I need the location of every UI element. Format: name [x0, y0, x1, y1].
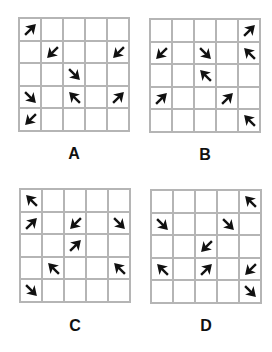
arrow-southwest-icon — [44, 44, 61, 61]
grid-cell — [109, 235, 131, 258]
grid-cell — [173, 43, 195, 66]
grid-cell — [152, 236, 174, 259]
grid-cell — [217, 110, 239, 133]
grid-cell — [43, 280, 65, 303]
arrow-southeast-icon — [220, 216, 237, 233]
grid-cell — [240, 191, 262, 214]
arrow-northwest-icon — [111, 260, 128, 277]
grid-cell — [64, 64, 86, 87]
grid-cell — [173, 110, 195, 133]
grid-cell — [108, 87, 130, 110]
grid-cell — [108, 19, 130, 42]
option-grid — [19, 188, 131, 303]
arrow-northwest-icon — [242, 193, 259, 210]
arrow-southeast-icon — [22, 89, 39, 106]
arrow-northwest-icon — [241, 45, 258, 62]
arrow-northwest-icon — [154, 261, 171, 278]
grid-cell — [240, 281, 262, 304]
grid-cell — [173, 88, 195, 111]
arrow-northeast-icon — [110, 89, 127, 106]
grid-cell — [217, 20, 239, 43]
grid-cell — [240, 259, 262, 282]
option-a[interactable]: A — [0, 0, 136, 176]
option-label: A — [54, 145, 94, 163]
arrow-southwest-icon — [153, 45, 170, 62]
grid-cell — [20, 42, 42, 65]
grid-cell — [173, 20, 195, 43]
grid-cell — [21, 235, 43, 258]
arrow-southwest-icon — [110, 44, 127, 61]
arrow-northeast-icon — [241, 22, 258, 39]
grid-cell — [43, 190, 65, 213]
arrow-southwest-icon — [198, 238, 215, 255]
option-grid — [150, 189, 262, 304]
arrow-northwest-icon — [197, 67, 214, 84]
grid-cell — [86, 87, 108, 110]
grid-cell — [86, 19, 108, 42]
grid-cell — [65, 280, 87, 303]
grid-cell — [109, 280, 131, 303]
grid-cell — [42, 42, 64, 65]
grid-cell — [151, 110, 173, 133]
grid-cell — [217, 43, 239, 66]
grid-cell — [65, 190, 87, 213]
grid-cell — [195, 20, 217, 43]
grid-cell — [108, 42, 130, 65]
grid-cell — [42, 87, 64, 110]
grid-cell — [152, 281, 174, 304]
grid-cell — [217, 88, 239, 111]
grid-cell — [195, 88, 217, 111]
grid-cell — [87, 190, 109, 213]
option-c[interactable]: C — [0, 176, 136, 352]
arrow-northeast-icon — [198, 261, 215, 278]
grid-cell — [43, 235, 65, 258]
grid-cell — [65, 213, 87, 236]
arrow-southeast-icon — [154, 216, 171, 233]
option-label: C — [55, 317, 95, 335]
arrow-northeast-icon — [22, 21, 39, 38]
arrow-northeast-icon — [219, 90, 236, 107]
grid-cell — [20, 19, 42, 42]
grid-cell — [174, 214, 196, 237]
grid-cell — [174, 259, 196, 282]
grid-cell — [109, 258, 131, 281]
grid-cell — [151, 20, 173, 43]
arrow-southeast-icon — [197, 45, 214, 62]
option-b[interactable]: B — [136, 0, 272, 176]
grid-cell — [65, 235, 87, 258]
grid-cell — [218, 214, 240, 237]
arrow-northeast-icon — [23, 215, 40, 232]
arrow-northwest-icon — [23, 192, 40, 209]
grid-cell — [21, 213, 43, 236]
arrow-southwest-icon — [242, 261, 259, 278]
grid-cell — [174, 281, 196, 304]
arrow-southeast-icon — [111, 215, 128, 232]
grid-cell — [86, 64, 108, 87]
grid-cell — [65, 258, 87, 281]
arrow-northeast-icon — [153, 90, 170, 107]
grid-cell — [64, 42, 86, 65]
grid-cell — [196, 236, 218, 259]
grid-cell — [195, 110, 217, 133]
grid-cell — [21, 190, 43, 213]
grid-cell — [174, 191, 196, 214]
grid-cell — [43, 258, 65, 281]
grid-cell — [239, 65, 261, 88]
grid-cell — [108, 109, 130, 132]
grid-cell — [173, 65, 195, 88]
arrow-northwest-icon — [45, 260, 62, 277]
grid-cell — [151, 88, 173, 111]
grid-cell — [87, 280, 109, 303]
grid-cell — [42, 64, 64, 87]
grid-cell — [240, 214, 262, 237]
grid-cell — [217, 65, 239, 88]
grid-cell — [218, 191, 240, 214]
grid-cell — [218, 259, 240, 282]
option-d[interactable]: D — [136, 176, 272, 352]
grid-cell — [86, 42, 108, 65]
grid-cell — [196, 281, 218, 304]
grid-cell — [239, 43, 261, 66]
arrow-southeast-icon — [242, 283, 259, 300]
grid-cell — [152, 259, 174, 282]
grid-cell — [195, 43, 217, 66]
